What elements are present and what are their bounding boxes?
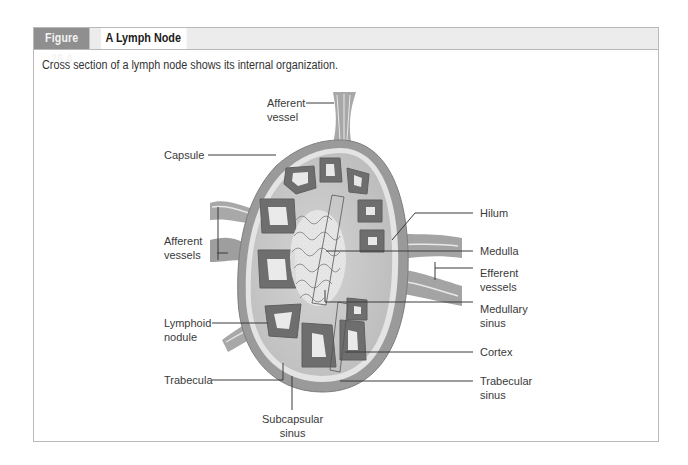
label-lymphoid-nodule: Lymphoid nodule (164, 316, 211, 344)
label-subcapsular-sinus: Subcapsular sinus (262, 412, 323, 440)
label-trabecular-sinus: Trabecular sinus (480, 374, 532, 402)
label-trabecula: Trabecula (164, 373, 213, 387)
label-afferent-vessel: Afferent vessel (267, 96, 305, 124)
label-medullary-sinus: Medullary sinus (480, 302, 528, 330)
lymph-node-illustration (0, 0, 688, 465)
afferent-vessel-top (332, 92, 356, 148)
label-medulla: Medulla (480, 244, 519, 258)
label-hilum: Hilum (480, 206, 508, 220)
label-afferent-vessels: Afferent vessels (164, 234, 202, 262)
label-cortex: Cortex (480, 345, 512, 359)
label-efferent-vessels: Efferent vessels (480, 266, 518, 294)
label-capsule: Capsule (164, 148, 204, 162)
